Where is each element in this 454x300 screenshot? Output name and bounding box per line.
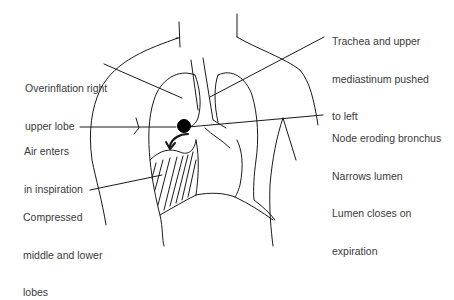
label-compressed-line3: lobes — [23, 286, 102, 299]
label-air-line1: Air enters — [24, 145, 83, 158]
lower-lobe-top — [150, 140, 196, 160]
right-lung-outline — [149, 73, 195, 246]
leader-overinflation — [104, 64, 182, 98]
label-trachea-line1: Trachea and upper — [332, 35, 429, 48]
left-lung-outline — [218, 73, 275, 220]
label-overinflation-line1: Overinflation right — [25, 82, 107, 95]
leader-trachea — [210, 37, 324, 97]
trachea-right-wall — [203, 58, 226, 128]
lower-lobe-medial — [196, 140, 198, 195]
compressed-lobe-hatching — [152, 152, 196, 210]
label-compressed: Compressed middle and lower lobes — [23, 186, 102, 300]
label-node-line2: Narrows lumen — [332, 170, 441, 183]
label-compressed-line2: middle and lower — [23, 249, 102, 262]
heart-left-border — [235, 140, 242, 197]
label-node-line4: expiration — [332, 245, 441, 258]
label-node-line3: Lumen closes on — [332, 207, 441, 220]
label-node: Node eroding bronchus Narrows lumen Lume… — [332, 107, 441, 282]
label-node-line1: Node eroding bronchus — [332, 132, 441, 145]
torso-right-outline — [270, 118, 283, 246]
label-trachea-line2: mediastinum pushed — [332, 73, 429, 86]
neck-left-line — [179, 22, 180, 47]
leader-node — [188, 115, 323, 127]
lymph-node-icon — [178, 120, 191, 133]
trachea-left-wall — [191, 60, 198, 110]
shoulder-right-outline — [237, 37, 318, 125]
label-compressed-line1: Compressed — [23, 211, 102, 224]
diaphragm-line — [196, 193, 273, 220]
